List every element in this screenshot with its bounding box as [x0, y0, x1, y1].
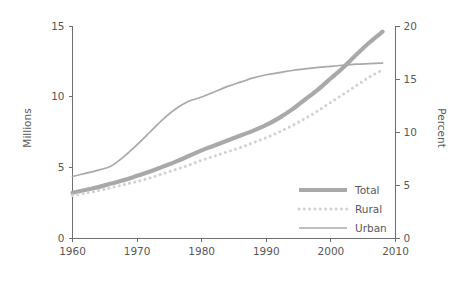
line-chart: 051015 05101520 196019701980199020002010…: [0, 0, 459, 287]
y-axis-left-title: Millions: [21, 108, 33, 147]
y-axis-right-ticks: 05101520: [396, 20, 417, 244]
y-axis-right-tick-label: 5: [404, 179, 411, 191]
legend-label-total: Total: [354, 184, 380, 196]
x-axis-tick-label: 2010: [382, 245, 409, 257]
legend-label-urban: Urban: [355, 222, 387, 234]
y-axis-right-tick-label: 20: [404, 20, 417, 32]
series-line-urban: [73, 63, 383, 176]
x-axis-ticks: 196019701980199020002010: [59, 238, 409, 257]
x-axis-tick-label: 1960: [59, 245, 86, 257]
chart-legend: TotalRuralUrban: [299, 184, 387, 234]
x-axis-tick-label: 1980: [188, 245, 215, 257]
y-axis-right-tick-label: 15: [404, 73, 417, 85]
y-axis-left-tick-label: 5: [58, 161, 65, 173]
series-line-total: [73, 32, 383, 193]
y-axis-left-tick-label: 15: [51, 20, 64, 32]
legend-label-rural: Rural: [355, 203, 382, 215]
x-axis-tick-label: 2000: [318, 245, 345, 257]
y-axis-left-tick-label: 0: [58, 232, 65, 244]
y-axis-left-ticks: 051015: [51, 20, 72, 244]
y-axis-left-tick-label: 10: [51, 90, 64, 102]
y-axis-right-title: Percent: [436, 108, 448, 148]
y-axis-right-tick-label: 0: [404, 232, 411, 244]
y-axis-right-tick-label: 10: [404, 126, 417, 138]
x-axis-tick-label: 1970: [124, 245, 151, 257]
series-line-rural: [73, 70, 383, 196]
x-axis-tick-label: 1990: [253, 245, 280, 257]
chart-container: 051015 05101520 196019701980199020002010…: [0, 0, 459, 287]
series-lines: [73, 32, 383, 196]
